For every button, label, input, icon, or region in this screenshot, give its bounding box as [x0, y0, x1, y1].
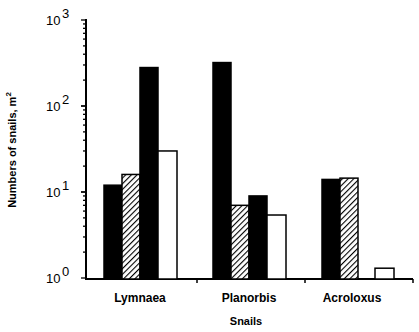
- bar: [249, 196, 267, 279]
- bar: [140, 68, 158, 279]
- bar: [213, 63, 231, 279]
- bar: [122, 174, 140, 279]
- x-axis-title: Snails: [230, 315, 262, 327]
- svg-text:3: 3: [62, 6, 69, 21]
- y-tick-label: 102: [46, 92, 69, 114]
- y-tick-label: 101: [46, 178, 69, 200]
- bar: [340, 178, 358, 279]
- category-label: Lymnaea: [114, 291, 166, 305]
- y-axis-title: Numbers of snails, m2: [4, 92, 18, 208]
- bar: [231, 205, 249, 279]
- svg-text:10: 10: [46, 13, 60, 28]
- svg-text:2: 2: [62, 92, 69, 107]
- bar: [158, 151, 177, 279]
- y-axis: 100101102103: [46, 6, 87, 286]
- bars: [104, 63, 394, 279]
- y-tick-label: 103: [46, 6, 69, 28]
- bar: [375, 268, 394, 279]
- bar: [267, 215, 286, 279]
- bar-chart: 100101102103 LymnaeaPlanorbisAcroloxusSn…: [0, 0, 419, 332]
- svg-text:10: 10: [46, 271, 60, 286]
- svg-text:10: 10: [46, 99, 60, 114]
- svg-text:10: 10: [46, 185, 60, 200]
- bar: [322, 179, 340, 279]
- category-label: Planorbis: [222, 291, 277, 305]
- bar: [104, 185, 122, 279]
- y-tick-label: 100: [46, 264, 69, 286]
- svg-text:0: 0: [62, 264, 69, 279]
- category-label: Acroloxus: [323, 291, 382, 305]
- svg-text:1: 1: [62, 178, 69, 193]
